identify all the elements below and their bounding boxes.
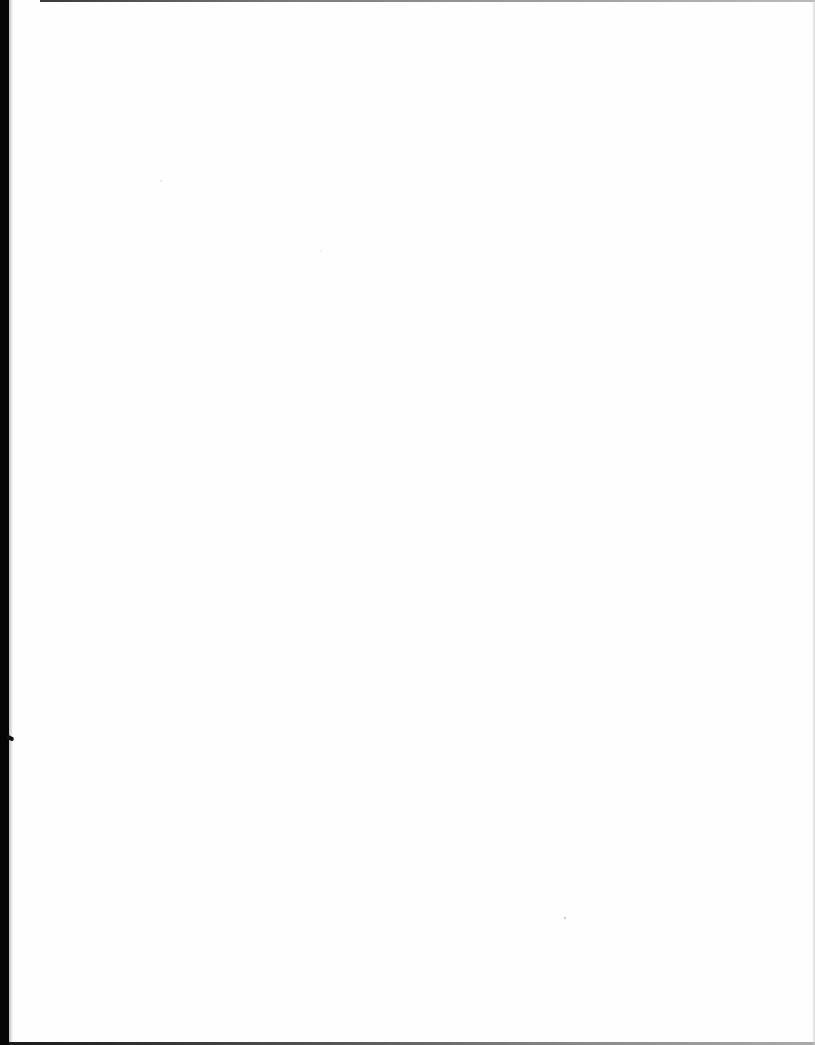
dust-speck: [564, 917, 566, 919]
dust-speck: [320, 250, 322, 252]
blank-scanned-page: [0, 0, 815, 1045]
scan-top-edge: [40, 0, 815, 2]
scan-left-edge: [0, 0, 9, 1045]
dust-speck: [160, 180, 162, 182]
